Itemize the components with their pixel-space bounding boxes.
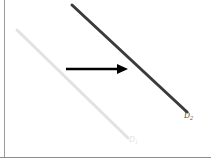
rightward-shift-arrow <box>66 64 128 74</box>
demand-shift-figure: D1 D2 <box>0 0 211 165</box>
d2-label-subscript: 2 <box>190 115 193 121</box>
d1-label-text: D <box>129 135 135 144</box>
demand-curve-d2 <box>72 5 187 112</box>
demand-curve-d1-label: D1 <box>129 136 138 144</box>
d1-label-subscript: 1 <box>135 139 138 145</box>
demand-curve-d1 <box>17 30 128 138</box>
d2-label-text: D <box>184 111 190 120</box>
shift-arrow-head <box>117 64 128 74</box>
plot-canvas <box>0 0 211 165</box>
demand-curve-d2-label: D2 <box>184 112 193 120</box>
